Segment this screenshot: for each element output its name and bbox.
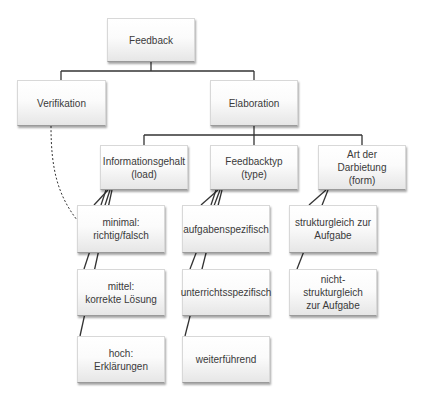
dashed-edge-verifikation-minimal: [51, 126, 77, 220]
node-nicht-strukturgleich: nicht-strukturgleich zur Aufgabe: [289, 269, 377, 316]
feedback-tree-diagram: Feedback Verifikation Elaboration Inform…: [0, 0, 422, 400]
node-feedbacktyp: Feedbacktyp (type): [210, 145, 298, 190]
node-strukturgleich: strukturgleich zur Aufgabe: [289, 205, 377, 253]
node-mittel: mittel: korrekte Lösung: [77, 269, 165, 316]
node-feedback: Feedback: [107, 18, 195, 62]
node-unterrichtsspezifisch: unterrichtsspezifisch: [182, 269, 270, 316]
node-aufgabenspezifisch: aufgabenspezifisch: [182, 205, 270, 253]
node-hoch: hoch: Erklärungen: [77, 336, 165, 383]
node-art-der-darbietung: Art der Darbietung (form): [318, 145, 406, 190]
node-weiterfuehrend: weiterführend: [182, 336, 270, 383]
node-verifikation: Verifikation: [17, 80, 106, 126]
node-informationsgehalt: Informationsgehalt (load): [100, 145, 188, 190]
node-elaboration: Elaboration: [210, 80, 298, 126]
node-minimal: minimal: richtig/falsch: [77, 205, 165, 253]
